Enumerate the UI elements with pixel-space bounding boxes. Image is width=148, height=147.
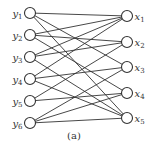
label-x1: x1 <box>135 11 145 24</box>
edge-y5-x4 <box>30 93 127 101</box>
node-y2 <box>25 30 36 41</box>
node-y4 <box>25 74 36 85</box>
label-x2: x2 <box>135 37 145 50</box>
edges-group <box>30 13 127 123</box>
edge-y4-x3 <box>30 67 127 79</box>
edge-y1-x1 <box>30 13 127 16</box>
label-y2: y2 <box>11 30 22 43</box>
edge-y1-x3 <box>30 13 127 67</box>
caption: (a) <box>67 130 81 141</box>
edge-y1-x5 <box>30 13 127 118</box>
edge-y4-x5 <box>30 79 127 118</box>
node-y3 <box>25 52 36 63</box>
node-x2 <box>122 37 133 48</box>
edge-y6-x3 <box>30 67 127 123</box>
label-x4: x4 <box>135 88 146 101</box>
edge-y2-x4 <box>30 35 127 93</box>
label-y1: y1 <box>11 8 22 21</box>
label-x5: x5 <box>135 113 145 126</box>
node-x1 <box>122 11 133 22</box>
node-x5 <box>122 113 133 124</box>
edge-y3-x2 <box>30 42 127 57</box>
node-x4 <box>122 88 133 99</box>
label-x3: x3 <box>135 62 145 75</box>
node-y6 <box>25 118 36 129</box>
label-y3: y3 <box>11 52 22 65</box>
bipartite-graph: y1y2y3y4y5y6x1x2x3x4x5 (a) <box>0 0 148 147</box>
node-y5 <box>25 96 36 107</box>
label-y5: y5 <box>11 96 22 109</box>
node-y1 <box>25 8 36 19</box>
label-y4: y4 <box>11 74 23 87</box>
label-y6: y6 <box>11 118 23 131</box>
node-x3 <box>122 62 133 73</box>
